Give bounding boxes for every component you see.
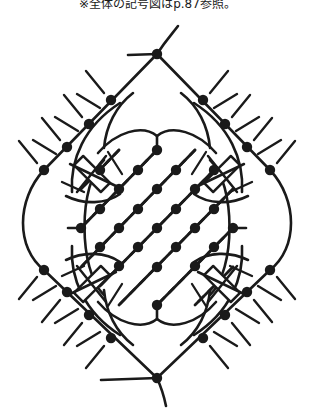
knot-node [242,142,252,152]
knot-node [152,262,162,272]
outer-edge-top-left [44,54,157,170]
outer-edge-top-right [157,54,270,170]
fringe-tick [86,346,104,368]
fringe-tick [77,94,100,108]
knot-node [152,223,162,233]
fringe-tick [254,118,272,140]
fringe-tick [64,95,82,117]
knot-node [152,49,162,59]
fringe-tick [42,118,60,140]
fringe-tick [86,71,104,93]
knot-node [152,145,162,155]
fringe-tick [258,286,281,300]
outer-arc-left [23,170,44,270]
outer-arc-right [270,170,291,270]
knot-node [114,223,124,233]
knot-node [190,261,200,271]
knot-node [220,119,230,129]
apex-top-stroke-a [157,26,178,54]
knot-node [152,373,162,383]
knot-node [209,242,219,252]
outer-envelope-arcs [23,26,291,406]
knot-node [209,165,219,175]
fringe-tick [77,332,100,346]
knot-node [114,184,124,194]
knot-node [39,265,49,275]
fringe-tick [258,140,281,154]
knot-node [133,242,143,252]
page-root: ※全体の記号図はp.87参照。 [0,0,315,414]
clasp-feather [192,152,206,174]
knot-node [133,204,143,214]
knot-node [84,119,94,129]
knot-node [198,333,208,343]
knot-node [220,310,230,320]
fringe-tick [42,300,60,322]
knot-node [198,95,208,105]
fringe-tick [232,323,250,345]
knot-node [209,204,219,214]
knot-node [95,242,105,252]
knot-node [242,287,252,297]
knot-node [152,300,162,310]
knot-node [171,204,181,214]
page-title: ※全体の記号図はp.87参照。 [0,0,315,11]
fringe-tick [214,332,237,346]
fringe-ticks [19,71,295,368]
knot-node [95,204,105,214]
knot-node [171,165,181,175]
knot-node [228,223,238,233]
knot-node [265,165,275,175]
fringe-tick [64,323,82,345]
knot-node [62,287,72,297]
knot-node [76,223,86,233]
knot-node [39,165,49,175]
fringe-tick [232,95,250,117]
knot-node [133,165,143,175]
knot-node [190,184,200,194]
fringe-tick [214,94,237,108]
fringe-tick [55,117,78,131]
fringe-tick [277,141,295,163]
knot-node [106,95,116,105]
knot-lattice-diagram [0,14,315,414]
knot-node [114,261,124,271]
apex-bottom-stroke-b [101,378,157,380]
fringe-tick [19,277,37,299]
fringe-tick [277,277,295,299]
knot-node [95,165,105,175]
fringe-tick [254,300,272,322]
knot-node [84,310,94,320]
knot-node [265,265,275,275]
fringe-tick [19,141,37,163]
knot-node [171,242,181,252]
fringe-tick [210,346,228,368]
knot-node [62,142,72,152]
fringe-tick [33,140,56,154]
fringe-tick [33,286,56,300]
fringe-tick [55,309,78,323]
fringe-tick [210,71,228,93]
knot-node [106,333,116,343]
fringe-tick [236,309,259,323]
knot-node [190,223,200,233]
knot-node [152,184,162,194]
fringe-tick [236,117,259,131]
